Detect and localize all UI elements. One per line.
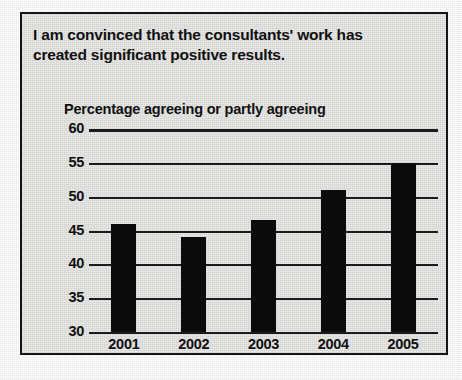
x-tick-label-2001: 2001 bbox=[92, 336, 156, 352]
chart-title-line-2: created significant positive results. bbox=[33, 45, 433, 65]
chart-subtitle: Percentage agreeing or partly agreeing bbox=[64, 101, 326, 117]
figure-panel: I am convinced that the consultants' wor… bbox=[20, 12, 448, 355]
bar-2005 bbox=[391, 163, 416, 332]
x-tick-label-2002: 2002 bbox=[162, 336, 226, 352]
x-tick-label-2005: 2005 bbox=[371, 336, 435, 352]
x-axis-labels: 20012002200320042005 bbox=[60, 334, 438, 360]
chart-title: I am convinced that the consultants' wor… bbox=[33, 25, 433, 66]
plot-area: 60555045403530 bbox=[60, 129, 438, 332]
bar-2001 bbox=[111, 224, 136, 332]
bar-2004 bbox=[321, 190, 346, 332]
x-tick-label-2003: 2003 bbox=[232, 336, 296, 352]
bar-2002 bbox=[181, 237, 206, 332]
scanned-page-background: I am convinced that the consultants' wor… bbox=[0, 0, 462, 380]
bars-layer bbox=[60, 129, 438, 332]
bar-2003 bbox=[251, 220, 276, 332]
x-tick-label-2004: 2004 bbox=[301, 336, 365, 352]
chart-title-line-1: I am convinced that the consultants' wor… bbox=[33, 25, 433, 45]
